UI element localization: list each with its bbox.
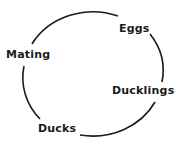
stage-label-eggs: Eggs — [119, 23, 150, 35]
arc-eggs-to-ducklings — [150, 34, 163, 82]
cycle-circle — [0, 0, 190, 156]
stage-label-mating: Mating — [6, 49, 50, 61]
duck-life-cycle-diagram: Eggs Ducklings Ducks Mating — [0, 0, 190, 156]
arc-mating-to-eggs — [32, 12, 118, 44]
stage-label-ducklings: Ducklings — [112, 85, 174, 97]
arc-ducklings-to-ducks — [80, 102, 155, 136]
stage-label-ducks: Ducks — [38, 123, 76, 135]
arc-ducks-to-mating — [23, 66, 40, 119]
